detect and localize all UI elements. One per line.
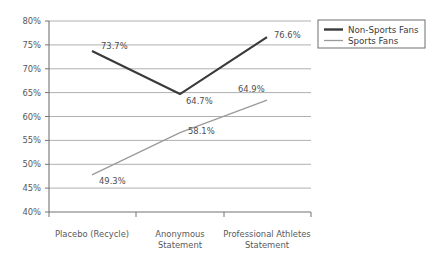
chart-legend: Non-Sports Fans Sports Fans [318, 20, 425, 48]
chart-container: 80% 75% 70% 65% 60% 55% 50% 45% 40% Plac… [0, 0, 431, 263]
y-tick-label-50: 50% [22, 159, 41, 169]
x-category-label-0: Placebo (Recycle) [55, 229, 129, 239]
legend-label-non-sports-fans: Non-Sports Fans [348, 25, 419, 35]
data-label-non-sports-1: 64.7% [186, 96, 213, 106]
y-tick-label-60: 60% [22, 112, 41, 122]
x-category-label-2: Professional Athletes [223, 229, 310, 239]
legend-label-sports-fans: Sports Fans [348, 36, 399, 46]
line-chart: 80% 75% 70% 65% 60% 55% 50% 45% 40% Plac… [0, 0, 431, 263]
y-tick-label-45: 45% [22, 183, 41, 193]
y-tick-label-75: 75% [22, 40, 41, 50]
y-tick-label-80: 80% [22, 16, 41, 26]
y-axis-tick-labels: 80% 75% 70% 65% 60% 55% 50% 45% 40% [22, 16, 41, 217]
data-label-sports-1: 58.1% [188, 126, 215, 136]
x-category-label-1-line2: Statement [158, 240, 203, 250]
y-tick-label-65: 65% [22, 88, 41, 98]
x-category-label-1: Anonymous [155, 229, 204, 239]
y-tick-label-40: 40% [22, 207, 41, 217]
data-label-non-sports-2: 76.6% [274, 30, 301, 40]
data-label-sports-0: 49.3% [99, 176, 126, 186]
y-tick-label-55: 55% [22, 135, 41, 145]
x-axis-ticks [49, 212, 311, 217]
x-axis-category-labels: Placebo (Recycle) Anonymous Statement Pr… [55, 229, 311, 250]
y-axis-ticks [45, 21, 49, 212]
x-category-label-2-line2: Statement [245, 240, 290, 250]
y-tick-label-70: 70% [22, 64, 41, 74]
data-label-non-sports-0: 73.7% [101, 41, 128, 51]
data-label-sports-2: 64.9% [238, 84, 265, 94]
